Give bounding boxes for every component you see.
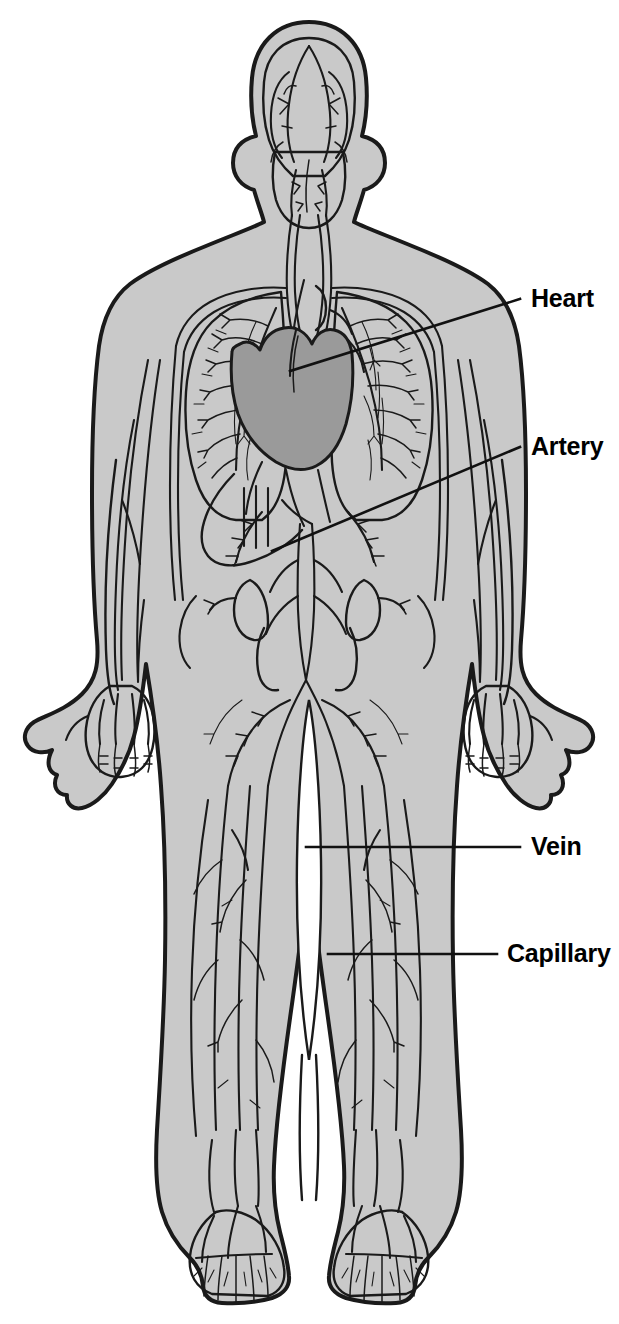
circulatory-system-figure: .body-shape{fill:#c9c9c9;stroke:#1a1a1a;… (0, 0, 619, 1324)
label-heart: Heart (531, 286, 594, 311)
label-capillary: Capillary (507, 941, 611, 966)
anatomy-illustration: .body-shape{fill:#c9c9c9;stroke:#1a1a1a;… (0, 0, 619, 1324)
label-artery: Artery (531, 434, 603, 459)
label-vein: Vein (531, 834, 582, 859)
